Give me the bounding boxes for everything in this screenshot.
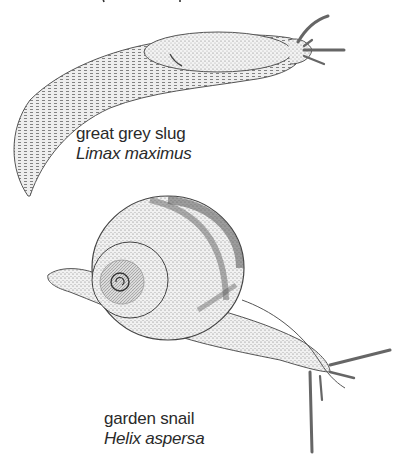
snail-caption: garden snail Helix aspersa xyxy=(104,409,204,449)
snail-scientific-name: Helix aspersa xyxy=(104,429,204,449)
snail-common-name: garden snail xyxy=(104,409,204,429)
illustration-page: great grey slug Limax maximus xyxy=(0,0,409,471)
snail-illustration xyxy=(0,0,409,471)
